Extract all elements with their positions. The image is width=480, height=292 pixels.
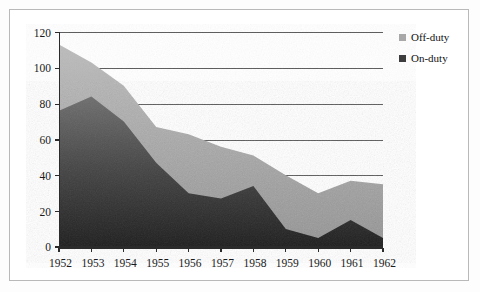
x-axis-ticks [59,248,383,252]
stacked-area-chart: 120 100 80 60 40 20 0 1952 1953 1954 195… [0,0,480,292]
legend-label-on-duty: On-duty [411,52,448,64]
x-tick-label-1957: 1957 [211,257,234,269]
x-tick-label-1952: 1952 [49,257,72,269]
legend-label-off-duty: Off-duty [411,31,450,43]
y-axis-ticks [55,33,59,248]
y-tick-label-0: 0 [45,241,51,253]
x-tick-label-1956: 1956 [179,257,202,269]
y-tick-label-80: 80 [40,98,52,110]
x-tick-label-1958: 1958 [243,257,266,269]
x-tick-label-1954: 1954 [114,257,137,269]
y-axis-tick-labels: 120 100 80 60 40 20 0 [34,27,52,254]
x-tick-label-1955: 1955 [146,257,169,269]
x-axis-tick-labels: 1952 1953 1954 1955 1956 1957 1958 1959 … [49,257,396,269]
x-tick-label-1959: 1959 [276,257,299,269]
x-tick-label-1953: 1953 [81,257,104,269]
y-tick-label-40: 40 [40,170,52,182]
legend-swatch-off-duty [399,34,406,41]
y-tick-label-20: 20 [40,206,52,218]
x-tick-label-1962: 1962 [373,257,396,269]
legend-item-off-duty[interactable]: Off-duty [399,31,450,43]
chart-legend: Off-duty On-duty [399,31,450,64]
x-tick-label-1961: 1961 [341,257,364,269]
y-tick-label-120: 120 [34,27,52,39]
x-tick-label-1960: 1960 [308,257,331,269]
legend-swatch-on-duty [399,55,406,62]
y-tick-label-60: 60 [40,134,52,146]
legend-item-on-duty[interactable]: On-duty [399,52,448,64]
chart-page: 120 100 80 60 40 20 0 1952 1953 1954 195… [0,0,480,292]
y-tick-label-100: 100 [34,62,52,74]
